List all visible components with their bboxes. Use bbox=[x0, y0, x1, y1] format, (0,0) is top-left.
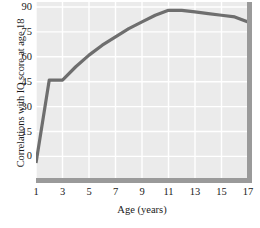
y-tick-label: 45 bbox=[4, 76, 32, 87]
x-tick-label: 1 bbox=[24, 185, 48, 198]
iq-correlation-line-chart: Correlations with IQ score at age 18 015… bbox=[0, 0, 260, 228]
plot-svg bbox=[36, 2, 248, 178]
x-tick-label: 17 bbox=[236, 185, 260, 198]
x-tick-label: 11 bbox=[157, 185, 181, 198]
x-tick-label: 5 bbox=[77, 185, 101, 198]
x-axis-tick-labels: 1357911131517 bbox=[0, 185, 260, 201]
x-tick-label: 13 bbox=[183, 185, 207, 198]
y-tick-label: 60 bbox=[4, 51, 32, 62]
x-tick-label: 9 bbox=[130, 185, 154, 198]
y-tick-label: 30 bbox=[4, 101, 32, 112]
y-tick-label: 0 bbox=[4, 150, 32, 161]
y-tick-label: 15 bbox=[4, 126, 32, 137]
right-axis-spine bbox=[247, 2, 252, 183]
x-axis-label: Age (years) bbox=[36, 203, 248, 216]
x-tick-label: 15 bbox=[210, 185, 234, 198]
y-tick-label: 90 bbox=[4, 1, 32, 12]
plot-area bbox=[36, 2, 248, 178]
x-tick-label: 3 bbox=[51, 185, 75, 198]
gridlines bbox=[36, 2, 248, 178]
x-axis-spine bbox=[36, 178, 252, 183]
x-tick-label: 7 bbox=[104, 185, 128, 198]
y-tick-label: 75 bbox=[4, 26, 32, 37]
